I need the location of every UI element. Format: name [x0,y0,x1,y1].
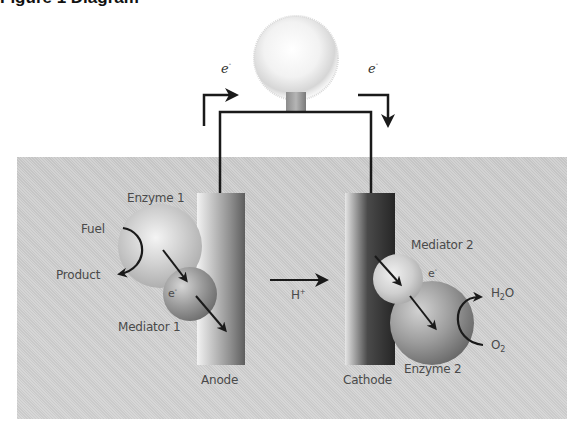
enzyme-1-label: Enzyme 1 [127,191,185,205]
water-label: H2O [491,286,514,302]
electron-label-right: e- [368,60,378,76]
mediator-2-electron-label: e- [428,266,437,280]
electron-label-left: e- [221,60,231,76]
proton-symbol: H [291,288,300,302]
oxygen-o: O [491,338,500,352]
proton-label: H+ [291,288,306,302]
product-label: Product [56,268,100,282]
external-circuit-wire [220,112,371,193]
water-o: O [505,286,514,300]
electron-charge: - [435,266,437,274]
biofuel-cell-diagram [0,0,573,439]
enzyme-2-label: Enzyme 2 [404,362,462,376]
oxygen-subscript: 2 [500,345,505,354]
electron-flow-arrow-right [358,95,388,124]
cathode-label: Cathode [343,373,392,387]
mediator-1-electron-label: e- [168,286,177,300]
electron-charge: - [229,60,231,68]
mediator-1-label: Mediator 1 [118,320,180,334]
electron-symbol: e [168,287,175,300]
electron-symbol: e [221,61,229,76]
electron-symbol: e [368,61,376,76]
electron-charge: - [175,286,177,294]
anode-label: Anode [201,373,238,387]
light-bulb-icon [254,16,338,112]
water-h: H [491,286,500,300]
proton-charge: + [300,288,306,296]
oxygen-label: O2 [491,338,505,354]
electron-charge: - [376,60,378,68]
mediator-2-label: Mediator 2 [411,238,473,252]
fuel-label: Fuel [81,222,105,236]
electron-symbol: e [428,267,435,280]
